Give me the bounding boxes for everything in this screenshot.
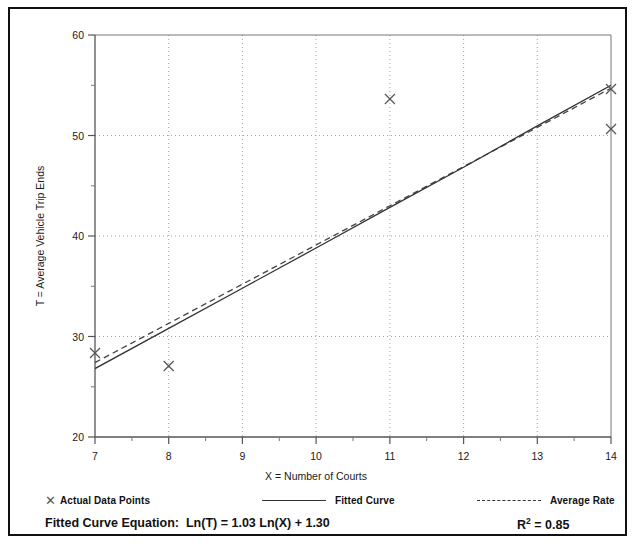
fitted-curve-equation: Fitted Curve Equation: Ln(T) = 1.03 Ln(X… xyxy=(45,516,330,530)
x-tick-label: 8 xyxy=(166,450,172,462)
legend-item-average-rate: Average Rate xyxy=(477,487,615,513)
r2-label: R xyxy=(517,518,526,532)
figure-canvas: 60 50 40 30 20 7 8 9 10 11 12 13 14 X = … xyxy=(0,0,639,548)
equation-label: Fitted Curve Equation: xyxy=(45,516,179,530)
chart-legend: ✕ Actual Data Points Fitted Curve Averag… xyxy=(12,487,627,513)
x-tick-label: 11 xyxy=(384,450,395,462)
x-tick-label: 12 xyxy=(458,450,470,462)
x-tick-label: 13 xyxy=(531,450,543,462)
solid-line-icon xyxy=(262,500,326,501)
footer-row: Fitted Curve Equation: Ln(T) = 1.03 Ln(X… xyxy=(12,516,627,540)
x-axis-title: X = Number of Courts xyxy=(265,470,367,482)
x-tick-label: 14 xyxy=(605,450,617,462)
equation-value: Ln(T) = 1.03 Ln(X) + 1.30 xyxy=(186,516,330,530)
legend-label: Average Rate xyxy=(550,495,615,506)
y-tick-label: 30 xyxy=(72,331,84,343)
legend-label: Actual Data Points xyxy=(60,495,150,506)
legend-label: Fitted Curve xyxy=(335,495,395,506)
y-tick-label: 60 xyxy=(72,29,84,41)
y-tick-label: 20 xyxy=(72,431,84,443)
y-tick-label: 50 xyxy=(72,130,84,142)
y-tick-label: 40 xyxy=(72,230,84,242)
y-axis-title: T = Average Vehicle Trip Ends xyxy=(34,166,46,307)
y-major-ticks xyxy=(88,35,95,437)
chart-svg: 60 50 40 30 20 7 8 9 10 11 12 13 14 X = … xyxy=(0,0,639,548)
dashed-line-icon xyxy=(477,500,541,501)
legend-item-fitted-curve: Fitted Curve xyxy=(262,487,395,513)
r-squared-value: R2 = 0.85 xyxy=(517,516,569,532)
x-tick-label: 10 xyxy=(310,450,322,462)
x-tick-label: 7 xyxy=(92,450,98,462)
plot-area xyxy=(95,35,611,437)
x-marker-icon: ✕ xyxy=(40,494,60,507)
legend-item-actual-data-points: ✕ Actual Data Points xyxy=(40,487,150,513)
x-tick-label: 9 xyxy=(239,450,245,462)
r2-number: = 0.85 xyxy=(531,518,570,532)
